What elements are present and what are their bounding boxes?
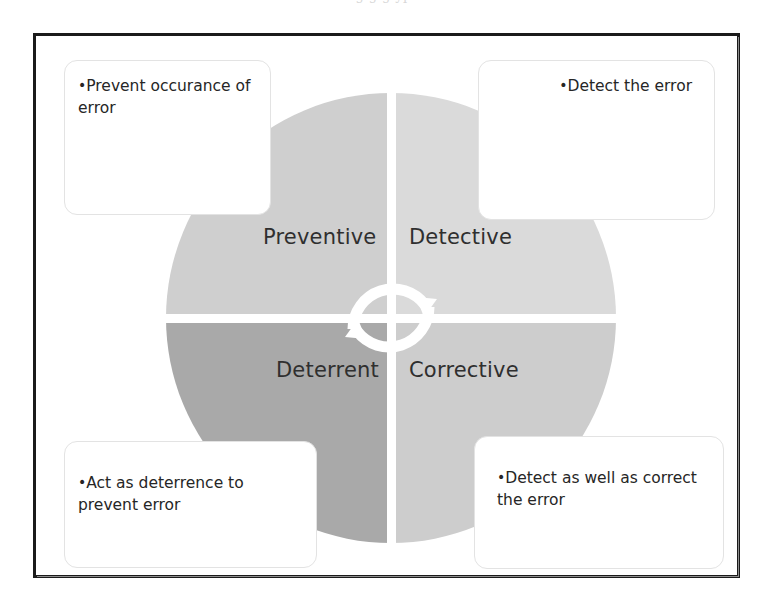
scan-remnant-text: g g g yp	[355, 0, 411, 3]
bullet-icon-detective: •	[559, 77, 567, 93]
callout-preventive[interactable]: •Prevent occurance of error	[64, 60, 271, 215]
diagram-frame: Preventive Detective Deterrent Correctiv…	[33, 33, 740, 578]
callout-detective[interactable]: •Detect the error	[478, 60, 715, 220]
callout-text-preventive: Prevent occurance of error	[78, 77, 250, 117]
callout-deterrent[interactable]: •Act as deterrence to prevent error	[64, 441, 317, 568]
quadrant-label-preventive: Preventive	[263, 225, 376, 249]
quadrant-label-detective: Detective	[409, 225, 512, 249]
callout-corrective[interactable]: •Detect as well as correct the error	[474, 436, 724, 569]
callout-text-corrective: Detect as well as correct the error	[497, 469, 697, 509]
cycle-arrows-icon	[326, 253, 456, 383]
callout-text-detective: Detect the error	[568, 77, 693, 95]
callout-text-deterrent: Act as deterrence to prevent error	[78, 474, 244, 514]
scan-top-text-remnant: g g g yp	[0, 0, 767, 14]
